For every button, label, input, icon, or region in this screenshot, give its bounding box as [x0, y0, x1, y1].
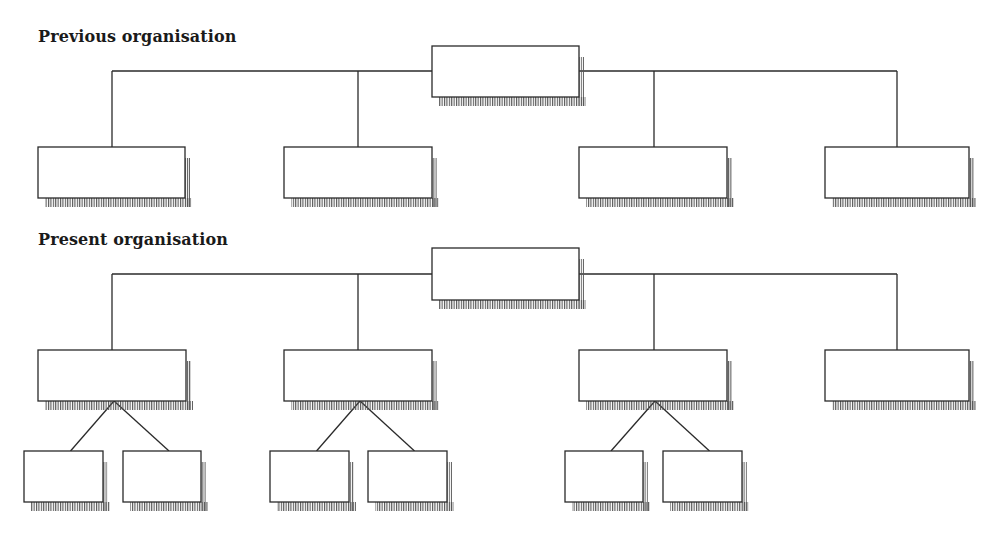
- box-shadow-hatch: [291, 198, 439, 207]
- box-shadow-hatch: [439, 97, 586, 106]
- previous-unit-box-3: [579, 147, 734, 207]
- box-shadow-hatch: [291, 401, 439, 410]
- box-shadow-hatch: [45, 401, 193, 410]
- previous-root-box: [432, 46, 586, 106]
- box-shadow-hatch: [45, 198, 192, 207]
- previous-unit-box-4: [825, 147, 976, 207]
- box-shadow-hatch-side: [742, 462, 747, 511]
- box-frame: [24, 451, 103, 502]
- box-shadow-hatch-side: [579, 57, 584, 106]
- box-frame: [579, 350, 727, 401]
- box-shadow-hatch: [832, 401, 976, 410]
- org-boxes: [24, 46, 976, 511]
- present-unit-box-4: [825, 350, 976, 410]
- box-shadow-hatch: [572, 502, 650, 511]
- box-shadow-hatch-side: [727, 158, 732, 207]
- box-frame: [825, 350, 969, 401]
- box-shadow-hatch: [277, 502, 356, 511]
- box-frame: [368, 451, 447, 502]
- box-frame: [284, 147, 432, 198]
- previous-unit-box-1: [38, 147, 192, 207]
- box-shadow-hatch-side: [447, 462, 452, 511]
- box-shadow-hatch: [130, 502, 208, 511]
- present-root-box: [432, 248, 586, 309]
- present-unit-box-2: [284, 350, 439, 410]
- present-subunit-box-2-2: [368, 451, 454, 511]
- present-unit-box-3: [579, 350, 734, 410]
- box-frame: [579, 147, 727, 198]
- box-shadow-hatch-side: [969, 158, 974, 207]
- box-shadow-hatch-side: [643, 462, 648, 511]
- box-shadow-hatch-side: [186, 361, 191, 410]
- box-shadow-hatch-side: [727, 361, 732, 410]
- box-shadow-hatch-side: [432, 361, 437, 410]
- box-frame: [38, 350, 186, 401]
- org-charts: [0, 0, 1000, 535]
- box-frame: [825, 147, 969, 198]
- present-subunit-box-3-1: [565, 451, 650, 511]
- box-shadow-hatch: [586, 401, 734, 410]
- box-shadow-hatch: [586, 198, 734, 207]
- box-frame: [123, 451, 201, 502]
- box-frame: [663, 451, 742, 502]
- present-subunit-box-1-2: [123, 451, 208, 511]
- box-frame: [565, 451, 643, 502]
- box-shadow-hatch-side: [103, 462, 108, 511]
- present-subunit-box-2-1: [270, 451, 356, 511]
- box-shadow-hatch: [832, 198, 976, 207]
- box-shadow-hatch-side: [349, 462, 354, 511]
- box-frame: [432, 248, 579, 300]
- box-frame: [270, 451, 349, 502]
- present-subunit-box-1-1: [24, 451, 110, 511]
- present-unit-box-1: [38, 350, 193, 410]
- previous-unit-box-2: [284, 147, 439, 207]
- box-frame: [38, 147, 185, 198]
- box-shadow-hatch: [31, 502, 110, 511]
- box-shadow-hatch: [670, 502, 749, 511]
- box-shadow-hatch-side: [432, 158, 437, 207]
- box-shadow-hatch: [439, 300, 586, 309]
- present-subunit-box-3-2: [663, 451, 749, 511]
- box-shadow-hatch: [375, 502, 454, 511]
- box-frame: [432, 46, 579, 97]
- box-shadow-hatch-side: [579, 259, 584, 309]
- box-frame: [284, 350, 432, 401]
- box-shadow-hatch-side: [201, 462, 206, 511]
- box-shadow-hatch-side: [185, 158, 190, 207]
- box-shadow-hatch-side: [969, 361, 974, 410]
